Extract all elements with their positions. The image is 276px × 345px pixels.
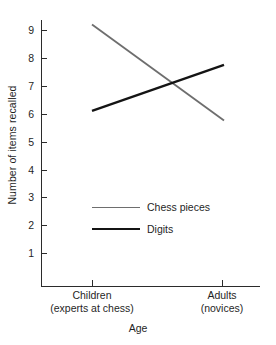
legend-label-chess-pieces: Chess pieces bbox=[147, 201, 210, 213]
series-lines bbox=[0, 0, 276, 345]
legend-label-digits: Digits bbox=[147, 223, 173, 235]
legend: Chess pieces Digits bbox=[92, 196, 210, 240]
legend-item-chess-pieces: Chess pieces bbox=[92, 196, 210, 218]
plot-area: 9 8 7 6 5 4 3 2 1 Children (experts at c… bbox=[0, 0, 276, 345]
line-chart: Number of items recalled 9 8 7 6 5 4 3 2… bbox=[0, 0, 276, 345]
x-axis-title: Age bbox=[0, 322, 276, 334]
legend-item-digits: Digits bbox=[92, 218, 210, 240]
legend-swatch-digits bbox=[92, 228, 140, 230]
legend-swatch-chess-pieces bbox=[92, 207, 140, 208]
